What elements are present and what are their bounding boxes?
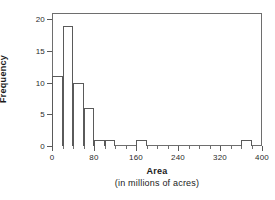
x-axis-major-tick [52, 146, 53, 151]
x-axis-minor-tick [210, 146, 211, 149]
x-axis-major-tick [220, 146, 221, 151]
x-axis-minor-tick [147, 146, 148, 149]
x-axis-tick-label: 320 [213, 153, 227, 162]
x-axis-tick-label: 160 [129, 153, 143, 162]
x-axis-minor-tick [63, 146, 64, 149]
x-axis: Area (in millions of acres) 080160240320… [52, 146, 262, 200]
y-axis-tick-label: 15 [36, 47, 45, 56]
x-axis-minor-tick [115, 146, 116, 149]
x-axis-minor-tick [126, 146, 127, 149]
x-axis-tick-label: 240 [171, 153, 185, 162]
x-axis-title: Area [146, 166, 167, 176]
x-axis-minor-tick [241, 146, 242, 149]
histogram-bar [63, 26, 74, 146]
x-axis-major-tick [136, 146, 137, 151]
x-axis-minor-tick [73, 146, 74, 149]
x-axis-minor-tick [157, 146, 158, 149]
x-axis-minor-tick [84, 146, 85, 149]
y-axis-title: Frequency [0, 55, 8, 103]
x-axis-minor-tick [231, 146, 232, 149]
x-axis-major-tick [94, 146, 95, 151]
histogram-bar [52, 76, 63, 146]
y-axis-tick-label: 20 [36, 15, 45, 24]
y-axis-tick-label: 5 [40, 110, 45, 119]
y-axis-tick-label: 0 [40, 142, 45, 151]
x-axis-minor-tick [168, 146, 169, 149]
histogram-bar [73, 83, 84, 146]
x-axis-minor-tick [199, 146, 200, 149]
x-axis-major-tick [262, 146, 263, 151]
bars-layer [52, 13, 262, 146]
x-axis-major-tick [178, 146, 179, 151]
x-axis-tick-label: 0 [50, 153, 55, 162]
y-axis-tick-label: 10 [36, 78, 45, 87]
x-axis-minor-tick [189, 146, 190, 149]
x-axis-tick-label: 80 [89, 153, 98, 162]
histogram-chart: 05101520 Frequency Area (in millions of … [0, 0, 275, 200]
x-axis-minor-tick [105, 146, 106, 149]
histogram-bar [84, 108, 95, 146]
x-axis-minor-tick [252, 146, 253, 149]
x-axis-tick-label: 400 [255, 153, 269, 162]
x-axis-subtitle: (in millions of acres) [115, 178, 199, 188]
